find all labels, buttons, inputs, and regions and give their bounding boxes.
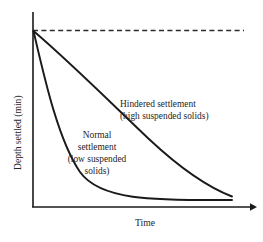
hindered-settlement-label-line1: Hindered settlement [120,99,196,109]
normal-settlement-label-line3: (low suspended [68,154,127,165]
normal-settlement-label-line4: solids) [84,166,109,177]
normal-settlement-label-line1: Normal [83,130,112,140]
normal-settlement-label-line2: settlement [78,142,117,152]
settling-curve-chart: Depth settled (min) Time Hindered settle… [0,0,263,242]
x-axis-label: Time [135,217,155,228]
hindered-settlement-label-line2: (high suspended solids) [120,111,209,122]
y-axis-label: Depth settled (min) [12,95,24,170]
